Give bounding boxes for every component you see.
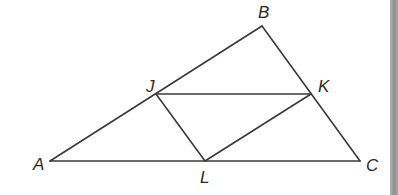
- vertex-label-A: A: [32, 155, 44, 174]
- vertex-label-J: J: [145, 77, 155, 96]
- triangle-diagram: ABCJKL: [0, 0, 398, 195]
- vertex-label-K: K: [318, 77, 330, 96]
- page-edge-bar: [390, 0, 398, 195]
- segment-JL: [156, 94, 205, 161]
- vertex-label-B: B: [258, 3, 269, 22]
- vertex-label-L: L: [200, 168, 209, 187]
- segment-KL: [205, 94, 311, 161]
- vertex-label-C: C: [366, 156, 379, 175]
